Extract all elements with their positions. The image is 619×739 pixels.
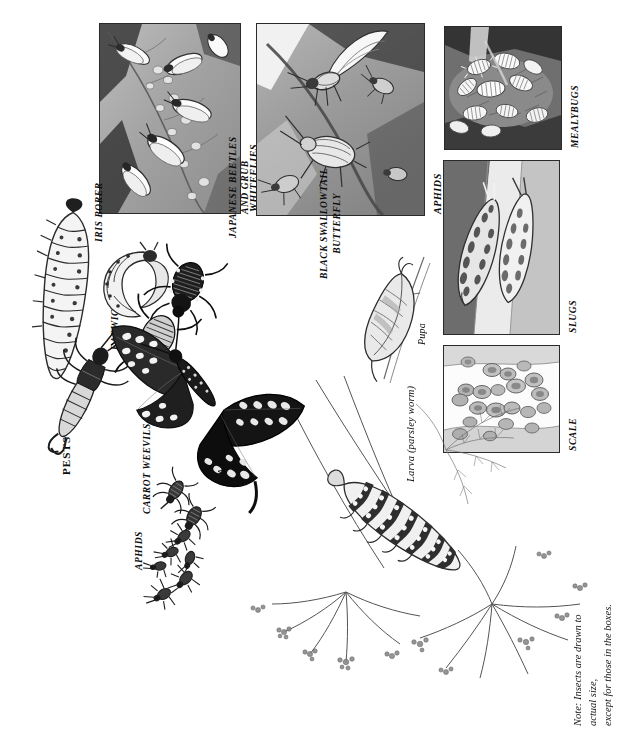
black-swallowtail-adult-butterfly: [118, 290, 328, 520]
specimen-label-aphids-actual-size: APHIDS: [134, 531, 144, 570]
specimen-label-japanese-beetles: JAPANESE BEETLES AND GRUB: [228, 136, 251, 238]
lifecycle-adult-butterfly: [118, 290, 328, 520]
lifecycle-label-adult: Adult: [216, 452, 227, 475]
lifecycle-larva: [330, 462, 470, 592]
plate-whiteflies: [99, 23, 241, 214]
figure-note: Note: Insects are drawn to actual size, …: [570, 586, 616, 726]
whiteflies-artwork: [100, 24, 240, 213]
lifecycle-label-pupa: Pupa: [416, 323, 427, 345]
plate-mealybugs: [444, 26, 562, 150]
slugs-artwork: [444, 161, 559, 334]
plate-label-aphids: APHIDS: [432, 173, 443, 214]
mealybugs-artwork: [445, 27, 561, 149]
plate-slugs: [443, 160, 560, 335]
lifecycle-pupa: [350, 255, 440, 385]
lifecycle-title: BLACK SWALLOWTAIL BUTTERFLY: [318, 168, 344, 279]
lifecycle-label-larva: Larva (parsley worm): [405, 386, 416, 482]
parsley-worm-caterpillar-on-dill: [330, 462, 470, 592]
plate-label-slugs: SLUGS: [568, 300, 578, 333]
chrysalis-on-stem: [350, 255, 440, 385]
plate-label-mealybugs: MEALYBUGS: [570, 85, 580, 148]
illustration-page: PESTS: [0, 0, 619, 739]
specimen-label-iris-borer: IRIS BORER: [94, 182, 104, 242]
